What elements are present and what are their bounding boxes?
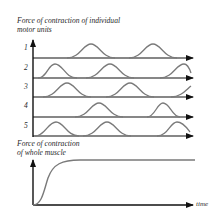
motor-unit-diagram <box>0 0 221 222</box>
whole-muscle-force-curve <box>33 160 195 205</box>
